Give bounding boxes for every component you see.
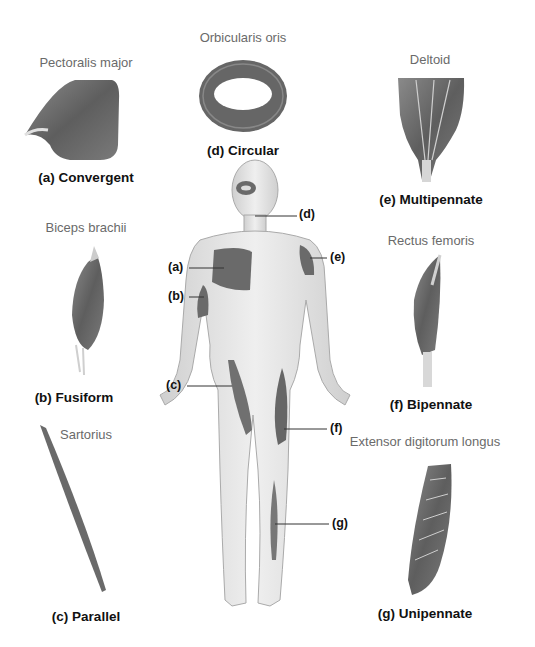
type-fusiform: (b) Fusiform xyxy=(35,390,114,405)
deltoid-illustration xyxy=(398,78,464,182)
callout-e: (e) xyxy=(330,250,345,264)
label-orbicularis-oris: Orbicularis oris xyxy=(200,30,287,45)
callout-g: (g) xyxy=(332,516,348,530)
sartorius-illustration xyxy=(40,425,106,592)
label-pectoralis-major: Pectoralis major xyxy=(39,55,132,70)
callout-b: (b) xyxy=(168,289,184,303)
callout-a: (a) xyxy=(168,260,183,274)
biceps-brachii-illustration xyxy=(72,246,104,375)
human-body-illustration xyxy=(160,160,350,606)
type-bipennate: (f) Bipennate xyxy=(390,397,473,412)
label-deltoid: Deltoid xyxy=(410,52,450,67)
orbicularis-oris-illustration xyxy=(199,60,287,132)
type-parallel: (c) Parallel xyxy=(52,609,120,624)
callout-d: (d) xyxy=(299,207,315,221)
type-multipennate: (e) Multipennate xyxy=(379,192,483,207)
callout-c: (c) xyxy=(166,378,181,392)
rectus-femoris-illustration xyxy=(414,255,441,387)
label-extensor-digitorum-longus: Extensor digitorum longus xyxy=(350,434,500,449)
callout-f: (f) xyxy=(330,421,343,435)
type-convergent: (a) Convergent xyxy=(38,170,133,185)
muscle-diagram xyxy=(0,0,535,647)
extensor-digitorum-longus-illustration xyxy=(408,464,452,595)
label-biceps-brachii: Biceps brachii xyxy=(46,220,127,235)
pectoralis-major-illustration xyxy=(25,80,119,160)
type-unipennate: (g) Unipennate xyxy=(378,606,473,621)
label-sartorius: Sartorius xyxy=(60,427,112,442)
type-circular: (d) Circular xyxy=(207,143,279,158)
body-pectoralis xyxy=(212,248,252,290)
label-rectus-femoris: Rectus femoris xyxy=(388,233,475,248)
